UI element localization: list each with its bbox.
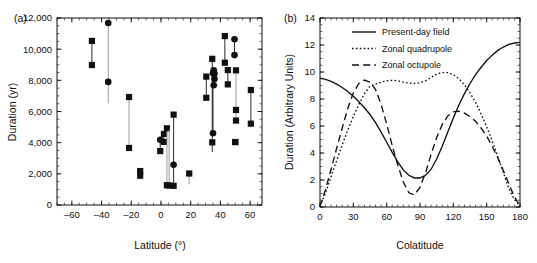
x-tick-label: 60 <box>381 211 392 222</box>
curve-dashed <box>320 80 520 206</box>
x-tick-label: 150 <box>479 211 495 222</box>
panel-b-xlabel: Colatitude <box>396 239 443 251</box>
legend-label: Present-day field <box>382 27 450 37</box>
x-tick-label: 180 <box>512 211 528 222</box>
legend-label: Zonal octupole <box>382 60 441 70</box>
y-tick-label: 0 <box>310 201 315 212</box>
y-tick-label: 8 <box>310 93 315 104</box>
y-tick-label: 14 <box>304 12 315 23</box>
panel-b-label: (b) <box>284 12 297 24</box>
y-tick-label: 2 <box>310 174 315 185</box>
x-tick-label: 0 <box>317 211 322 222</box>
y-tick-label: 10 <box>304 66 315 77</box>
y-tick-label: 6 <box>310 120 315 131</box>
y-tick-label: 12 <box>304 39 315 50</box>
legend-label: Zonal quadrupole <box>382 44 452 54</box>
x-tick-label: 90 <box>415 211 426 222</box>
x-tick-label: 120 <box>445 211 461 222</box>
panel-b-ylabel: Duration (Arbitrary Units) <box>283 54 295 170</box>
figure-container: (a) –60–40–20020406002,0004,0006,0008,00… <box>0 0 537 263</box>
panel-b: (b) 030609012015018002468101214 Present-… <box>0 0 537 263</box>
panel-b-svg: (b) 030609012015018002468101214 Present-… <box>0 0 537 263</box>
y-tick-label: 4 <box>310 147 315 158</box>
x-tick-label: 30 <box>348 211 359 222</box>
